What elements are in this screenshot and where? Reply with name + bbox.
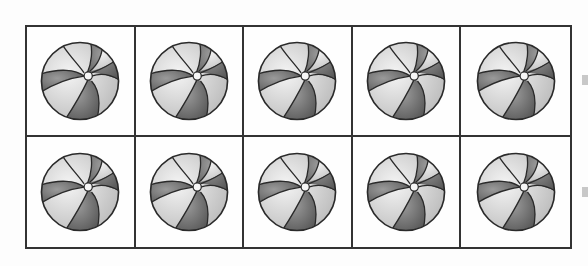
ten-frame-cell — [27, 137, 136, 247]
beach-ball-icon — [148, 40, 230, 122]
edge-artifact — [582, 187, 588, 197]
beach-ball-icon — [256, 151, 338, 233]
beach-ball-icon — [39, 151, 121, 233]
beach-ball-icon — [475, 151, 557, 233]
edge-artifact — [582, 75, 588, 85]
ten-frame-cell — [461, 27, 570, 137]
beach-ball-icon — [39, 40, 121, 122]
ten-frame-cell — [136, 27, 245, 137]
beach-ball-icon — [148, 151, 230, 233]
ten-frame-cell — [353, 137, 462, 247]
ten-frame-cell — [461, 137, 570, 247]
ten-frame-grid — [25, 25, 572, 249]
ten-frame-cell — [244, 27, 353, 137]
beach-ball-icon — [365, 40, 447, 122]
beach-ball-icon — [256, 40, 338, 122]
ten-frame-cell — [27, 27, 136, 137]
beach-ball-icon — [475, 40, 557, 122]
ten-frame-cell — [353, 27, 462, 137]
beach-ball-icon — [365, 151, 447, 233]
ten-frame-cell — [244, 137, 353, 247]
ten-frame-cell — [136, 137, 245, 247]
